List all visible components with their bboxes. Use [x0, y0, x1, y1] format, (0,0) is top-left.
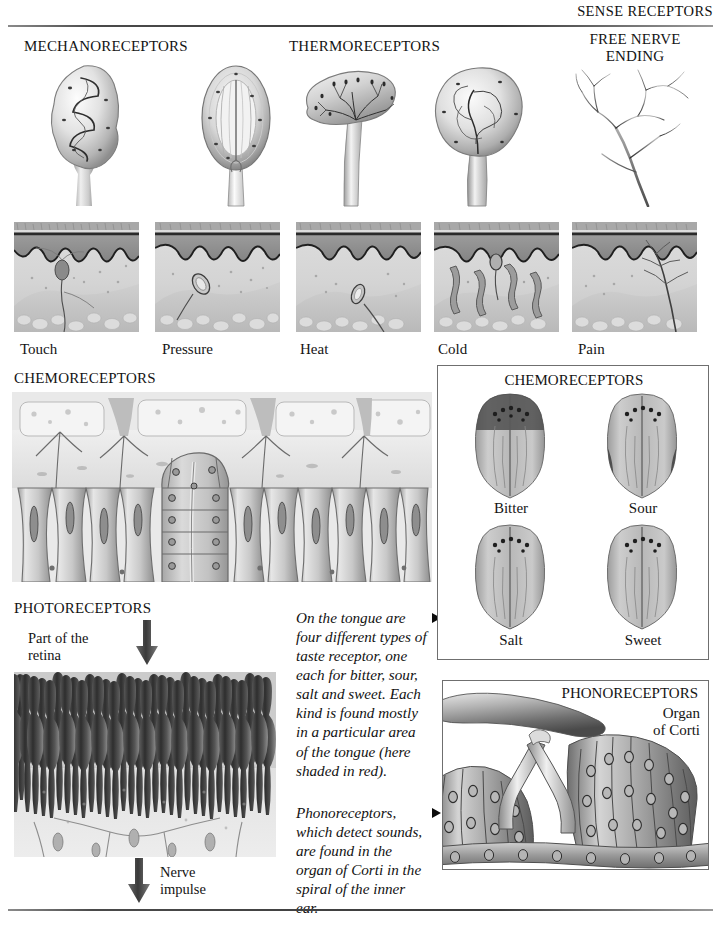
label-pressure: Pressure	[162, 341, 213, 358]
label-cold: Cold	[438, 341, 467, 358]
label-tongue-salt: Salt	[481, 632, 541, 649]
caption-tongue-text: On the tongue are four different types o…	[296, 608, 428, 780]
panel-phonoreceptors: PHONORECEPTORS Organ of Corti	[442, 680, 709, 870]
label-nerve-impulse-line1: Nerve	[160, 864, 206, 881]
page-header: SENSE RECEPTORS	[0, 2, 713, 20]
label-heat: Heat	[300, 341, 328, 358]
label-organ-of-corti-line2: of Corti	[653, 722, 700, 739]
label-part-of-the-retina-line1: Part of the	[28, 630, 88, 647]
illustration-skin-pain	[572, 222, 697, 332]
label-nerve-impulse: Nerve impulse	[160, 864, 206, 897]
heading-chemoreceptors: CHEMORECEPTORS	[14, 370, 156, 387]
illustration-taste-bud-section	[12, 392, 432, 582]
label-tongue-bitter: Bitter	[481, 500, 541, 517]
label-nerve-impulse-line2: impulse	[160, 881, 206, 898]
illustration-free-nerve-ending	[552, 62, 702, 207]
illustration-skin-touch	[14, 222, 139, 332]
label-part-of-the-retina-line2: retina	[28, 647, 88, 664]
header-divider	[8, 25, 713, 27]
caption-tongue: On the tongue are four different types o…	[296, 608, 441, 780]
panel-title-phonoreceptors: PHONORECEPTORS	[443, 685, 706, 702]
illustration-pacinian-corpuscle	[188, 62, 284, 207]
heading-photoreceptors: PHOTORECEPTORS	[14, 600, 151, 617]
label-organ-of-corti: Organ of Corti	[653, 705, 700, 739]
illustration-krause-bulb	[428, 62, 532, 207]
illustration-tongue-sour	[601, 392, 683, 500]
triangle-right-icon	[432, 808, 441, 818]
arrow-down-to-retina	[134, 620, 160, 666]
illustration-tongue-bitter	[469, 392, 551, 500]
footer-divider	[8, 909, 713, 911]
illustration-meissner-corpuscle	[40, 62, 136, 207]
heading-free-nerve-ending: FREE NERVE ENDING	[560, 31, 710, 65]
panel-title-chemoreceptors: CHEMORECEPTORS	[438, 372, 710, 389]
illustration-skin-pressure	[155, 222, 280, 332]
illustration-retina-rods-cones	[14, 672, 276, 857]
arrow-down-nerve-impulse	[126, 858, 152, 904]
illustration-skin-heat	[296, 222, 421, 332]
label-tongue-sour: Sour	[613, 500, 673, 517]
label-part-of-the-retina: Part of the retina	[28, 630, 88, 663]
label-tongue-sweet: Sweet	[613, 632, 673, 649]
page-title: SENSE RECEPTORS	[577, 3, 713, 19]
label-touch: Touch	[20, 341, 57, 358]
caption-phonoreceptors: Phonoreceptors, which detect sounds, are…	[296, 803, 441, 917]
heading-free-nerve-ending-line1: FREE NERVE	[560, 31, 710, 48]
illustration-skin-cold	[434, 222, 559, 332]
heading-thermoreceptors: THERMORECEPTORS	[289, 38, 440, 55]
label-pain: Pain	[578, 341, 605, 358]
illustration-ruffini-ending	[296, 62, 406, 207]
illustration-tongue-salt	[469, 523, 551, 631]
label-organ-of-corti-line1: Organ	[653, 705, 700, 722]
illustration-tongue-sweet	[601, 523, 683, 631]
caption-phonoreceptors-text: Phonoreceptors, which detect sounds, are…	[296, 803, 428, 917]
heading-mechanoreceptors: MECHANORECEPTORS	[24, 38, 188, 55]
